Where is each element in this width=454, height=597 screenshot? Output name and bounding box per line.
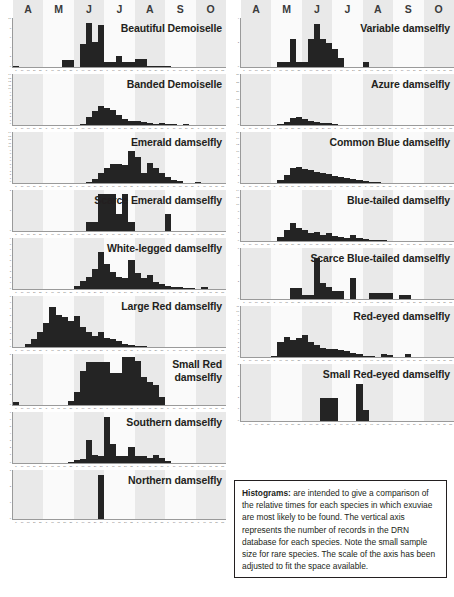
y-tick-label: 5 [10, 314, 11, 316]
y-tick-label: 3 [238, 386, 239, 388]
y-tick-label: 3 [10, 271, 11, 273]
plot-area: Common Blue damselfly [241, 132, 454, 184]
x-tick-strip: 5101520255101520255101520255101520255101… [13, 520, 226, 526]
panel-large-red-damselfly: 876543210Large Red damselfly510152025510… [0, 296, 226, 354]
y-axis: 210 [0, 190, 13, 232]
caption-lead: Histograms: [242, 488, 291, 498]
y-tick-label: 2 [238, 346, 239, 348]
panel-northern-damselfly: 3210Northern damselfly510152025510152025… [0, 470, 226, 526]
y-tick-label: 4 [238, 264, 239, 266]
bar-series [241, 18, 454, 68]
y-axis: 1614121086420 [228, 132, 241, 184]
y-tick-label: 1 [10, 282, 11, 284]
panel-variable-damselfly: 420Variable damselfly5101520255101520255… [228, 18, 454, 74]
y-axis: 14121086420 [228, 190, 241, 242]
y-tick-label: 0 [10, 287, 11, 289]
plot-area: Scarce Blue-tailed damselfly [241, 248, 454, 300]
bar-series [13, 74, 226, 126]
bar-series [13, 296, 226, 348]
y-tick-label: 3 [10, 373, 11, 375]
y-tick-label: 10 [236, 310, 239, 312]
x-tick-label: 25 [448, 422, 454, 428]
month-label-j-2: J [74, 0, 104, 18]
left-panels: 1086420Beautiful Demoiselle5101520255101… [0, 18, 226, 526]
bar-series [241, 132, 454, 184]
panel-beautiful-demoiselle: 1086420Beautiful Demoiselle5101520255101… [0, 18, 226, 74]
y-tick-label: 12 [236, 144, 239, 146]
month-label-o-6: O [196, 0, 226, 18]
y-tick-label: 6 [10, 419, 11, 421]
y-tick-label: 0 [238, 181, 239, 183]
y-tick-label: 4 [10, 320, 11, 322]
y-tick-label: 2 [238, 397, 239, 399]
plot-area: Emerald damselfly [13, 132, 226, 184]
y-tick-label: 2 [10, 383, 11, 385]
y-tick-label: 6 [238, 248, 239, 250]
plot-area: Azure damselfly [241, 74, 454, 126]
y-tick-label: 2 [238, 175, 239, 177]
y-tick-label: 4 [238, 375, 239, 377]
plot-area: Large Red damselfly [13, 296, 226, 348]
y-tick-label: 2 [10, 333, 11, 335]
month-header-right: AMJJASO [241, 0, 454, 18]
plot-area: Southern damselfly [13, 412, 226, 464]
y-tick-label: 4 [238, 225, 239, 227]
panel-small-red-eyed-damselfly: 543210Small Red-eyed damselfly5101520255… [228, 364, 454, 428]
y-tick-label: 8 [10, 296, 11, 298]
y-axis: 9876543210 [0, 238, 13, 290]
panel-red-eyed-damselfly: 11109876543210Red-eyed damselfly51015202… [228, 306, 454, 364]
y-tick-label: 0 [10, 65, 11, 67]
y-tick-label: 2 [10, 190, 11, 192]
y-tick-label: 0 [238, 419, 239, 421]
month-label-j-3: J [332, 0, 362, 18]
y-tick-label: 6 [10, 308, 11, 310]
y-axis: 420 [228, 18, 241, 68]
y-tick-label: 14 [236, 138, 239, 140]
y-tick-label: 6 [238, 328, 239, 330]
month-label-o-6: O [424, 0, 454, 18]
y-tick-label: 9 [10, 238, 11, 240]
month-label-a-4: A [363, 0, 393, 18]
y-tick-label: 5 [10, 354, 11, 356]
y-tick-label: 9 [238, 315, 239, 317]
y-axis: 543210 [0, 354, 13, 406]
y-tick-label: 0 [10, 123, 11, 125]
plot-area: Blue-tailed damselfly [241, 190, 454, 242]
y-tick-label: 2 [10, 276, 11, 278]
y-axis: 3210 [0, 470, 13, 520]
plot-area: Small Reddamselfly [13, 354, 226, 406]
y-tick-label: 4 [10, 265, 11, 267]
y-tick-label: 5 [238, 333, 239, 335]
y-tick-label: 25 [236, 82, 239, 84]
bar-series [13, 412, 226, 464]
y-tick-label: 2 [238, 281, 239, 283]
y-tick-label: 6 [10, 254, 11, 256]
y-tick-label: 1 [10, 454, 11, 456]
panel-southern-damselfly: 76543210Southern damselfly51015202551015… [0, 412, 226, 470]
y-tick-label: 1 [10, 209, 11, 211]
bar-series [13, 470, 226, 520]
y-axis: 14131211109876543210 [0, 74, 13, 126]
y-tick-label: 7 [238, 324, 239, 326]
x-tick-label: 25 [220, 520, 226, 526]
month-label-j-3: J [104, 0, 134, 18]
y-tick-label: 2 [10, 485, 11, 487]
right-panels: 420Variable damselfly5101520255101520255… [228, 18, 454, 428]
month-label-j-2: J [302, 0, 332, 18]
month-label-m-1: M [43, 0, 73, 18]
bar-series [13, 190, 226, 232]
y-tick-label: 8 [10, 27, 11, 29]
month-header-left: AMJJASO [13, 0, 226, 18]
panel-banded-demoiselle: 14131211109876543210Banded Demoiselle510… [0, 74, 226, 132]
y-tick-label: 1 [238, 408, 239, 410]
y-tick-label: 0 [10, 403, 11, 405]
bar-series [241, 74, 454, 126]
y-tick-label: 0 [10, 517, 11, 519]
y-tick-label: 10 [236, 107, 239, 109]
y-tick-label: 0 [238, 297, 239, 299]
y-tick-label: 3 [10, 440, 11, 442]
y-tick-label: 7 [10, 302, 11, 304]
y-tick-label: 0 [238, 65, 239, 67]
panel-common-blue-damselfly: 1614121086420Common Blue damselfly510152… [228, 132, 454, 190]
y-tick-label: 7 [10, 412, 11, 414]
